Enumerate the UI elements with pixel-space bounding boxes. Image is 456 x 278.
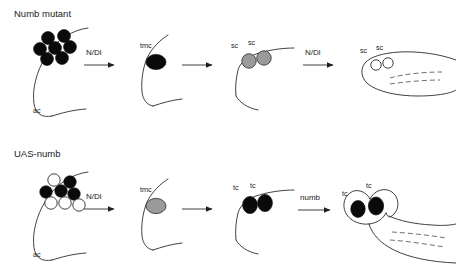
cell-cluster-item	[56, 52, 69, 65]
bristle-shaft-upper	[389, 216, 456, 225]
stage-tmc-numb-mutant: tmc	[140, 35, 182, 106]
cell-cluster-item	[45, 197, 57, 209]
internal-dashed-line	[390, 80, 440, 84]
cell-cluster-item	[41, 53, 54, 66]
cell-tc	[351, 201, 365, 218]
stage-proneural-cluster-uas-numb: ac	[33, 172, 88, 261]
cell-sc	[383, 58, 393, 68]
bristle-shaft-lower	[369, 224, 456, 263]
cell-cluster-item	[64, 176, 76, 188]
stage-proneural-cluster-numb-mutant: ac	[33, 28, 88, 117]
cell-label-sc: sc	[376, 43, 384, 52]
cell-label-tmc: tmc	[140, 41, 152, 50]
cell-sc	[257, 51, 271, 65]
epithelium-arc-lower	[153, 243, 182, 250]
cell-tmc	[146, 198, 166, 213]
cell-label-tc: tc	[342, 189, 348, 198]
cell-label-tmc: tmc	[140, 185, 152, 194]
stage-tc-uas-numb: tc tc	[233, 181, 294, 254]
cell-label-sc: sc	[248, 38, 256, 47]
arrow-numb-mutant-1: N/Dl	[84, 48, 114, 65]
internal-dashed-line	[390, 72, 442, 78]
lineage-diagram: Numb mutant ac N/Dl tmc	[0, 0, 456, 278]
epithelium-arc-lower	[52, 253, 86, 260]
cell-label-sc: sc	[231, 41, 239, 50]
cell-label-tc: tc	[366, 181, 372, 190]
arrow-label: N/Dl	[305, 48, 321, 57]
arrow-uas-numb-3: numb	[298, 193, 330, 210]
cell-cluster-item	[59, 197, 71, 209]
epithelium-arc-lower	[236, 96, 258, 110]
cell-tc	[243, 196, 258, 213]
organ-label-ac: ac	[33, 106, 41, 115]
stage-tmc-uas-numb: tmc	[140, 179, 182, 250]
arrow-label: N/Dl	[86, 192, 102, 201]
cell-cluster-item	[48, 174, 60, 186]
row-title-numb-mutant: Numb mutant	[14, 8, 71, 19]
cell-tc	[258, 194, 273, 211]
epithelium-arc-lower	[153, 99, 182, 106]
row-uas-numb: UAS-numb ac N/Dl tmc	[14, 148, 456, 263]
arrow-uas-numb-1: N/Dl	[84, 192, 114, 209]
row-numb-mutant: Numb mutant ac N/Dl tmc	[14, 8, 456, 117]
cell-sc	[242, 54, 256, 68]
cell-label-sc: sc	[360, 46, 368, 55]
cell-cluster-item	[64, 41, 77, 54]
arrow-numb-mutant-3: N/Dl	[303, 48, 333, 65]
arrow-label: numb	[300, 193, 321, 202]
cell-label-tc: tc	[233, 183, 239, 192]
cell-tmc	[146, 54, 166, 69]
cell-label-tc: tc	[250, 181, 256, 190]
stage-bristle-uas-numb: tc tc	[342, 181, 456, 263]
cell-sc	[371, 60, 381, 70]
cell-tc	[368, 197, 383, 215]
epithelium-arc-lower	[52, 109, 86, 116]
cell-cluster-item	[55, 185, 67, 197]
arrow-label: N/Dl	[86, 48, 102, 57]
stage-sc-gray-numb-mutant: sc sc	[231, 38, 294, 110]
internal-dashed-line	[392, 232, 446, 238]
cell-cluster-item	[40, 186, 52, 198]
epithelium-arc-lower	[236, 240, 258, 254]
internal-dashed-line	[390, 240, 444, 247]
organ-label-ac: ac	[33, 250, 41, 259]
stage-sc-socket-numb-mutant: sc sc	[360, 43, 456, 96]
row-title-uas-numb: UAS-numb	[14, 148, 60, 159]
cell-cluster-item	[73, 199, 85, 211]
